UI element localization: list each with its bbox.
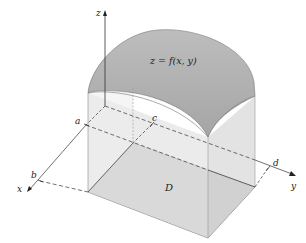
x-axis-label: x <box>17 184 22 194</box>
bound-b-label: b <box>31 170 37 180</box>
region-label: D <box>164 182 173 193</box>
tick-d <box>266 166 270 171</box>
x-axis <box>30 125 86 189</box>
solid-under-surface-diagram: z x y a b c d z = f(x, y) D <box>0 0 306 243</box>
bound-c-label: c <box>152 113 157 123</box>
y-axis-label: y <box>290 181 297 191</box>
tick-b <box>38 180 43 182</box>
bound-a-label: a <box>75 116 80 126</box>
z-axis-arrow-icon <box>103 10 107 16</box>
surface-label: z = f(x, y) <box>149 55 197 66</box>
bound-d-label: d <box>273 158 279 168</box>
y-axis-arrow-icon <box>289 171 296 176</box>
z-axis-label: z <box>95 8 101 18</box>
x-axis-arrow-icon <box>27 186 32 192</box>
guide-x-b <box>40 181 88 192</box>
